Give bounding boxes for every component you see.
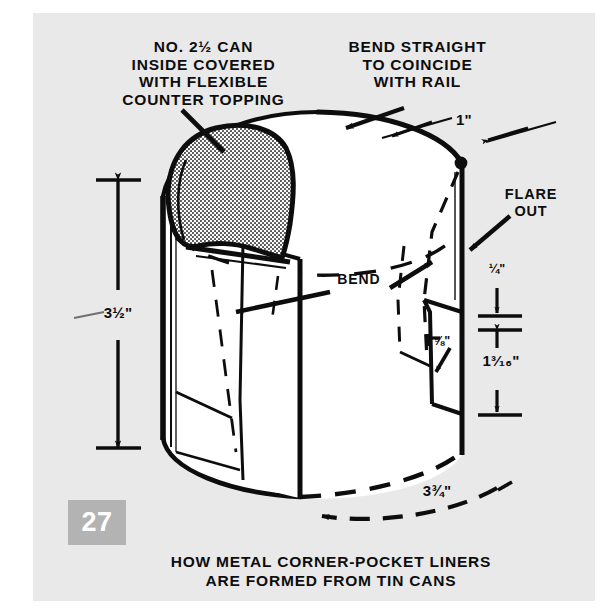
figure-caption-line2: ARE FORMED FROM TIN CANS <box>166 572 496 590</box>
figure-stage: NO. 2½ CAN INSIDE COVERED WITH FLEXIBLE … <box>0 0 616 616</box>
dim-label-diameter: 3¾" <box>412 483 462 500</box>
dim-label-tab-width: ⅝" <box>424 334 460 348</box>
leader-flare-out <box>470 216 510 250</box>
counter-topping-patch <box>168 125 293 268</box>
dim-label-tab-height: 1³⁄₁₆" <box>472 353 530 370</box>
callout-bend: BEND <box>330 272 388 288</box>
callout-flare-out: FLARE OUT <box>495 186 567 219</box>
callout-counter-topping: NO. 2½ CAN INSIDE COVERED WITH FLEXIBLE … <box>96 38 311 108</box>
dim-label-top-flange: 1" <box>445 112 483 129</box>
dim-label-height: 3½" <box>86 305 150 322</box>
dim-top-flange-right <box>488 128 528 140</box>
callout-bend-straight: BEND STRAIGHT TO COINCIDE WITH RAIL <box>330 38 505 91</box>
page-number: 27 <box>81 507 112 538</box>
dim-label-flare-gap: ¼" <box>476 262 518 276</box>
page-number-box: 27 <box>68 500 126 545</box>
figure-caption-line1: HOW METAL CORNER-POCKET LINERS <box>166 553 496 571</box>
